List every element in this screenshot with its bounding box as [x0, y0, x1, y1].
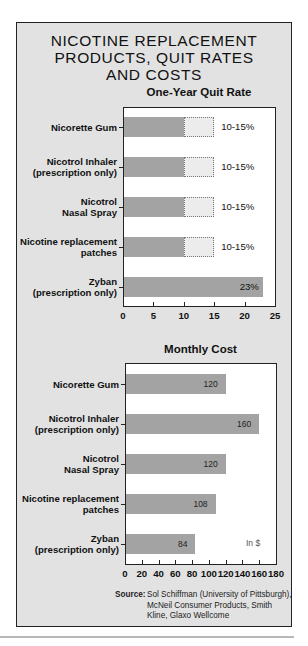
- source-line-3: Kline, Glaxo Wellcome: [147, 611, 297, 622]
- category-tick: [119, 287, 123, 288]
- category-label-line: (prescription only): [0, 544, 119, 555]
- source-line-2: McNeil Consumer Products, Smith: [147, 601, 297, 612]
- x-axis-tick: [175, 560, 176, 564]
- category-tick: [121, 504, 125, 505]
- source-label: Source: [115, 590, 143, 599]
- category-label: Nicotrol Inhaler(prescription only): [0, 413, 119, 435]
- x-axis-tick-label: 10: [169, 310, 199, 321]
- unit-label: In $: [246, 538, 260, 548]
- bar-range-uncertainty: [184, 117, 214, 137]
- category-label: Nicorette Gum: [0, 122, 117, 133]
- x-axis-tick: [275, 302, 276, 306]
- x-axis-tick-label: 0: [108, 310, 138, 321]
- bar-quit-rate: [124, 157, 184, 177]
- x-axis-tick: [192, 560, 193, 564]
- category-label-line: (prescription only): [0, 424, 119, 435]
- data-label: 120: [192, 379, 218, 389]
- x-axis-tick-label: 5: [138, 310, 168, 321]
- bar-range-uncertainty: [184, 157, 214, 177]
- x-axis-tick-label: 15: [199, 310, 229, 321]
- bottom-divider: [0, 636, 294, 638]
- category-label: Nicotine replacementpatches: [0, 493, 119, 515]
- source-note: Source: Sol Schiffman (University of Pit…: [115, 590, 295, 601]
- title-line-2: PRODUCTS, QUIT RATES: [16, 49, 292, 66]
- bar-quit-rate: [124, 237, 184, 257]
- category-label-line: Nicorette Gum: [0, 379, 119, 390]
- x-axis-tick: [242, 560, 243, 564]
- data-label: 120: [192, 459, 218, 469]
- title-line-1: NICOTINE REPLACEMENT: [16, 32, 292, 49]
- category-tick: [119, 127, 123, 128]
- category-label-line: Nasal Spray: [0, 207, 117, 218]
- category-label: NicotrolNasal Spray: [0, 196, 117, 218]
- category-label: NicotrolNasal Spray: [0, 453, 119, 475]
- category-label-line: (prescription only): [0, 167, 117, 178]
- category-label-line: Nicotine replacement: [0, 236, 117, 247]
- data-label: 10-15%: [221, 161, 254, 172]
- category-tick: [119, 207, 123, 208]
- data-label: 10-15%: [221, 201, 254, 212]
- category-label-line: Nicotrol: [0, 453, 119, 464]
- category-label-line: Nicotine replacement: [0, 493, 119, 504]
- source-text: Sol Schiffman (University of Pittsburgh)…: [147, 590, 297, 622]
- x-axis-tick: [245, 302, 246, 306]
- category-label-line: patches: [0, 247, 117, 258]
- category-tick: [119, 167, 123, 168]
- infographic-title: NICOTINE REPLACEMENT PRODUCTS, QUIT RATE…: [16, 32, 292, 83]
- data-label: 23%: [233, 281, 259, 292]
- bar-quit-rate: [124, 197, 184, 217]
- category-label-line: (prescription only): [0, 287, 117, 298]
- x-axis-tick: [214, 302, 215, 306]
- x-axis-tick: [159, 560, 160, 564]
- data-label: 10-15%: [221, 121, 254, 132]
- quit-rate-chart-title: One-Year Quit Rate: [123, 86, 275, 98]
- category-tick: [121, 544, 125, 545]
- title-line-3: AND COSTS: [16, 66, 292, 83]
- category-label-line: Nasal Spray: [0, 464, 119, 475]
- data-label: 108: [182, 499, 208, 509]
- category-tick: [121, 464, 125, 465]
- category-label-line: Zyban: [0, 533, 119, 544]
- data-label: 160: [225, 419, 251, 429]
- x-axis-tick: [123, 302, 124, 306]
- x-axis-tick: [184, 302, 185, 306]
- source-line-1: Sol Schiffman (University of Pittsburgh)…: [147, 590, 297, 601]
- category-label: Nicotrol Inhaler(prescription only): [0, 156, 117, 178]
- category-label: Nicorette Gum: [0, 379, 119, 390]
- data-label: 10-15%: [221, 241, 254, 252]
- category-label-line: Nicotrol: [0, 196, 117, 207]
- x-axis-tick: [259, 560, 260, 564]
- x-axis-tick: [142, 560, 143, 564]
- category-tick: [119, 247, 123, 248]
- category-label-line: Zyban: [0, 276, 117, 287]
- category-label-line: Nicotrol Inhaler: [0, 156, 117, 167]
- x-axis-tick: [153, 302, 154, 306]
- x-axis-tick: [226, 560, 227, 564]
- x-axis-tick: [209, 560, 210, 564]
- x-axis-tick-label: 25: [260, 310, 290, 321]
- bar-range-uncertainty: [184, 197, 214, 217]
- x-axis-tick-label: 180: [261, 568, 291, 579]
- category-label: Zyban(prescription only): [0, 533, 119, 555]
- category-tick: [121, 384, 125, 385]
- x-axis-tick-label: 20: [230, 310, 260, 321]
- category-label: Nicotine replacementpatches: [0, 236, 117, 258]
- monthly-cost-chart-title: Monthly Cost: [125, 343, 276, 355]
- category-label-line: Nicorette Gum: [0, 122, 117, 133]
- category-label-line: Nicotrol Inhaler: [0, 413, 119, 424]
- category-label-line: patches: [0, 504, 119, 515]
- bar-range-uncertainty: [184, 237, 214, 257]
- x-axis-tick: [276, 560, 277, 564]
- x-axis-tick: [125, 560, 126, 564]
- bar-quit-rate: [124, 117, 184, 137]
- category-label: Zyban(prescription only): [0, 276, 117, 298]
- data-label: 84: [161, 539, 187, 549]
- category-tick: [121, 424, 125, 425]
